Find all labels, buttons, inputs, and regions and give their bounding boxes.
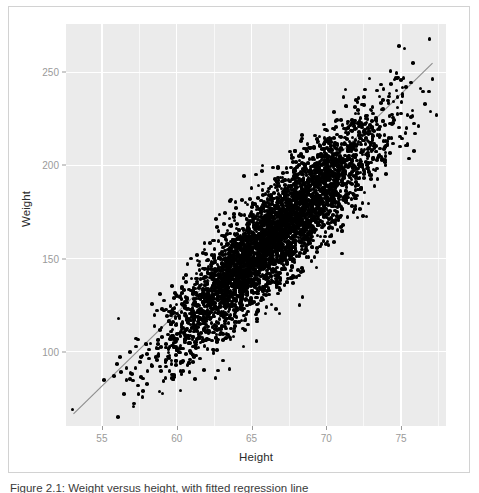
data-point [118,355,122,359]
data-point [299,213,303,217]
data-point [167,356,171,360]
figure-caption: Figure 2.1: Weight versus height, with f… [10,482,470,493]
data-point [290,264,294,268]
data-point [413,132,417,136]
data-point [217,239,221,243]
data-point [234,206,238,210]
data-point [423,102,427,106]
data-point [375,123,379,127]
data-point [281,243,285,247]
data-point [279,208,283,212]
data-point [262,274,266,278]
data-point [362,172,366,176]
data-point [316,167,320,171]
data-point [234,200,238,204]
data-point [145,382,149,386]
data-point [214,376,218,380]
data-point [325,155,329,159]
data-point [71,408,75,412]
data-point [221,268,225,272]
data-point [221,338,225,342]
data-point [224,252,228,256]
data-point [264,221,268,225]
data-point [246,310,250,314]
data-point [401,94,405,98]
data-point [187,342,191,346]
data-point [193,300,197,304]
data-point [400,137,404,141]
data-point [228,307,232,311]
data-point [210,264,214,268]
data-point [224,292,228,296]
data-point [283,283,287,287]
data-point [352,124,356,128]
data-point [370,125,374,129]
data-point [266,227,270,231]
data-point [354,204,358,208]
data-point [195,253,199,257]
data-point [257,184,261,188]
data-point [224,283,228,287]
data-point [145,343,149,347]
data-point [315,250,319,254]
data-point [226,268,230,272]
data-point [153,324,157,328]
data-point [188,329,192,333]
data-point [394,76,398,80]
data-point [196,320,200,324]
data-point [229,327,233,331]
data-point [274,307,278,311]
data-point [346,215,350,219]
data-point [206,288,210,292]
data-point [310,235,314,239]
data-point [255,287,259,291]
data-point [247,231,251,235]
data-point [228,199,232,203]
data-point [233,285,237,289]
data-point [371,158,375,162]
data-point [411,109,415,113]
data-point [397,126,401,130]
data-point [208,241,212,245]
data-point [196,325,200,329]
data-point [234,310,238,314]
data-point [226,301,230,305]
data-point [306,192,310,196]
data-point [162,299,166,303]
data-point [244,246,248,250]
data-point [150,302,154,306]
data-point [332,110,336,114]
data-point [369,177,373,181]
data-point [354,155,358,159]
data-point [239,302,243,306]
data-point [324,230,328,234]
data-point [332,240,336,244]
data-point [174,359,178,363]
data-point [159,369,163,373]
data-point [136,384,140,388]
data-point [276,196,280,200]
data-point [278,312,282,316]
data-point [228,217,232,221]
data-point [359,116,363,120]
data-point [341,148,345,152]
data-point [243,319,247,323]
data-point [128,350,132,354]
data-point [241,294,245,298]
data-point [308,223,312,227]
data-point [346,149,350,153]
data-point [329,187,333,191]
data-point [288,212,292,216]
data-point [241,227,245,231]
data-point [366,117,370,121]
data-point [323,128,327,132]
data-point [138,360,142,364]
x-tick-label: 65 [232,433,272,444]
data-point [184,280,188,284]
data-point [359,187,363,191]
data-point [357,112,361,116]
data-point [259,225,263,229]
data-point [389,69,393,73]
data-point [196,316,200,320]
data-point [220,324,224,328]
